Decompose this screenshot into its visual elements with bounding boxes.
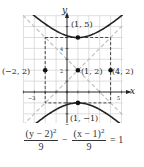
- point-label-center: (1, 2): [81, 67, 103, 76]
- hyperbola-graph: y x −3 5 2 4 (1, 5) (1, −1) (−2, 2) (1, …: [0, 0, 144, 125]
- y-axis-label: y: [61, 5, 68, 15]
- asymptote-line: [0, 0, 144, 125]
- point-marker: [43, 68, 48, 73]
- grid: [23, 15, 123, 123]
- numerator-y-text: (y − 2): [26, 128, 53, 139]
- fraction-y-term: (y − 2)2 9: [24, 126, 58, 153]
- tick-label-neg3: −3: [28, 95, 35, 101]
- numerator-x: (x − 1)2: [72, 126, 106, 141]
- point-label-left: (−2, 2): [2, 67, 30, 76]
- tick-label-4: 4: [60, 46, 63, 52]
- asymptote-line: [0, 0, 144, 125]
- numerator-x-text: (x − 1): [74, 128, 101, 139]
- tick-label-5: 5: [117, 95, 120, 101]
- tick-label-2: 2: [60, 68, 63, 74]
- asymptotes: [0, 0, 144, 125]
- point-marker: [76, 101, 81, 106]
- exponent-y: 2: [53, 127, 57, 135]
- point-label-right: (4, 2): [112, 67, 134, 76]
- numerator-y: (y − 2)2: [24, 126, 58, 141]
- denominator-x: 9: [72, 141, 106, 153]
- denominator-y: 9: [24, 141, 58, 153]
- point-marker: [76, 35, 81, 40]
- x-axis-label: x: [130, 86, 135, 96]
- fraction-x-term: (x − 1)2 9: [72, 126, 106, 153]
- minus-sign: −: [62, 134, 68, 145]
- point-label-top: (1, 5): [71, 20, 93, 29]
- equation: (y − 2)2 9 − (x − 1)2 9 = 1: [22, 126, 132, 164]
- exponent-x: 2: [101, 127, 105, 135]
- point-marker: [76, 68, 81, 73]
- equals-one: = 1: [110, 134, 123, 145]
- point-label-bottom: (1, −1): [70, 114, 98, 123]
